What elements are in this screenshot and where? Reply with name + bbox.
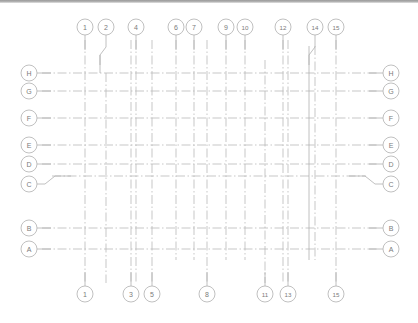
grid-bubble-bottom-3[interactable]: 3 <box>123 286 139 302</box>
bubble-label: B <box>27 225 32 232</box>
grid-bubble-top-9[interactable]: 9 <box>218 19 234 35</box>
leader-top-14 <box>309 35 315 65</box>
bubble-label: C <box>388 181 393 188</box>
grid-bubble-bottom-5[interactable]: 5 <box>144 286 160 302</box>
grid-bubble-right-E[interactable]: E <box>383 137 399 153</box>
grid-bubble-top-10[interactable]: 10 <box>237 19 253 35</box>
grid-bubble-top-2[interactable]: 2 <box>98 19 114 35</box>
vertical-gridline-group <box>85 40 336 283</box>
bubble-label: 1 <box>83 291 87 298</box>
grid-bubble-right-B[interactable]: B <box>383 220 399 236</box>
bubble-label: C <box>26 181 31 188</box>
bubble-label: E <box>27 142 32 149</box>
bubble-label: D <box>388 161 393 168</box>
bubble-label: G <box>388 88 393 95</box>
leader-top-2 <box>100 35 106 65</box>
bubble-label: 8 <box>205 291 209 298</box>
grid-bubble-left-E[interactable]: E <box>21 137 37 153</box>
bubble-label: 3 <box>129 291 133 298</box>
bubble-label: 13 <box>285 291 292 298</box>
bubble-label: 7 <box>192 24 196 31</box>
bubble-label: A <box>27 246 32 253</box>
grid-bubble-group: 124679101214151358111315HHGGFFEEDDCCBBAA <box>21 19 399 302</box>
grid-bubble-right-C[interactable]: C <box>383 176 399 192</box>
grid-bubble-top-7[interactable]: 7 <box>186 19 202 35</box>
grid-bubble-top-15[interactable]: 15 <box>328 19 344 35</box>
bubble-label: D <box>26 161 31 168</box>
grid-bubble-left-B[interactable]: B <box>21 220 37 236</box>
grid-bubble-top-14[interactable]: 14 <box>307 19 323 35</box>
grid-bubble-bottom-13[interactable]: 13 <box>280 286 296 302</box>
grid-bubble-left-A[interactable]: A <box>21 241 37 257</box>
grid-bubble-right-A[interactable]: A <box>383 241 399 257</box>
bubble-label: 15 <box>333 24 340 31</box>
grid-bubble-left-F[interactable]: F <box>21 110 37 126</box>
bubble-label: 6 <box>174 24 178 31</box>
bubble-label: 4 <box>134 24 138 31</box>
bubble-label: F <box>389 115 393 122</box>
grid-plan-canvas: 124679101214151358111315HHGGFFEEDDCCBBAA <box>0 0 418 323</box>
bubble-label: 5 <box>150 291 154 298</box>
bubble-label: H <box>388 70 393 77</box>
grid-bubble-top-12[interactable]: 12 <box>275 19 291 35</box>
grid-bubble-left-C[interactable]: C <box>21 176 37 192</box>
bubble-label: 14 <box>312 24 319 31</box>
bubble-label: A <box>389 246 394 253</box>
leader-row-right-C <box>349 176 383 184</box>
grid-plan-svg: 124679101214151358111315HHGGFFEEDDCCBBAA <box>0 0 418 323</box>
bubble-label: E <box>389 142 394 149</box>
grid-bubble-bottom-8[interactable]: 8 <box>199 286 215 302</box>
grid-bubble-top-6[interactable]: 6 <box>168 19 184 35</box>
bubble-label: 15 <box>333 291 340 298</box>
grid-bubble-left-D[interactable]: D <box>21 156 37 172</box>
bubble-label: 2 <box>104 24 108 31</box>
bubble-label: G <box>26 88 31 95</box>
bubble-label: 1 <box>83 24 87 31</box>
bubble-label: B <box>389 225 394 232</box>
grid-bubble-right-G[interactable]: G <box>383 83 399 99</box>
grid-bubble-bottom-1[interactable]: 1 <box>77 286 93 302</box>
grid-bubble-top-1[interactable]: 1 <box>77 19 93 35</box>
horizontal-gridline-group <box>42 73 378 249</box>
bubble-label: 10 <box>242 24 249 31</box>
grid-bubble-left-H[interactable]: H <box>21 65 37 81</box>
grid-bubble-right-F[interactable]: F <box>383 110 399 126</box>
grid-bubble-bottom-15[interactable]: 15 <box>328 286 344 302</box>
grid-bubble-bottom-11[interactable]: 11 <box>257 286 273 302</box>
bubble-label: 11 <box>262 291 269 298</box>
leader-row-left-C <box>37 176 71 184</box>
grid-bubble-top-4[interactable]: 4 <box>128 19 144 35</box>
grid-bubble-right-D[interactable]: D <box>383 156 399 172</box>
bubble-label: 9 <box>224 24 228 31</box>
grid-bubble-left-G[interactable]: G <box>21 83 37 99</box>
grid-bubble-right-H[interactable]: H <box>383 65 399 81</box>
bubble-label: H <box>26 70 31 77</box>
bubble-label: F <box>27 115 31 122</box>
bubble-label: 12 <box>280 24 287 31</box>
